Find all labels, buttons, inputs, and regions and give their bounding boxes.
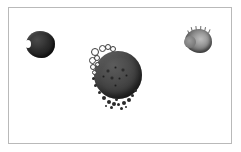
- vesicle-7: [95, 62, 100, 67]
- granule-1: [107, 100, 111, 104]
- granule-8: [110, 106, 113, 109]
- granule-7: [98, 91, 101, 94]
- surface-pit-5: [125, 74, 128, 77]
- surface-pit-1: [114, 66, 117, 69]
- surface-pit-3: [110, 76, 114, 80]
- granule-5: [127, 98, 131, 102]
- granule-13: [92, 77, 95, 80]
- granule-10: [115, 98, 118, 101]
- left-particle-notch: [25, 40, 31, 48]
- granule-0: [102, 96, 106, 100]
- granule-9: [120, 107, 123, 110]
- surface-pit-6: [102, 75, 105, 78]
- granule-11: [134, 89, 137, 92]
- specimen-left-particle: [26, 31, 55, 58]
- granule-15: [105, 105, 107, 107]
- specimen-center-sphere: [89, 43, 147, 111]
- micrograph-page: [0, 0, 241, 152]
- specimen-right-particle: [184, 26, 214, 54]
- micrograph-field: [9, 8, 231, 143]
- surface-pit-4: [118, 77, 121, 80]
- surface-pit-7: [114, 84, 117, 87]
- vesicle-3: [110, 46, 116, 52]
- granule-3: [117, 103, 120, 106]
- granule-6: [131, 94, 134, 97]
- granule-2: [112, 102, 116, 106]
- vesicle-8: [92, 70, 97, 75]
- right-particle-lobe: [184, 36, 196, 48]
- granule-14: [125, 106, 127, 108]
- granule-4: [122, 101, 126, 105]
- surface-pit-0: [106, 69, 110, 73]
- granule-12: [94, 84, 97, 87]
- surface-pit-2: [121, 68, 125, 72]
- vesicle-5: [94, 55, 100, 61]
- micrograph-frame: [8, 7, 232, 144]
